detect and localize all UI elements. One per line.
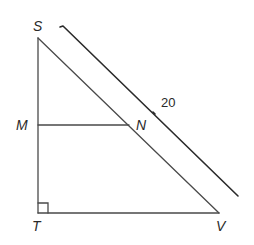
label-t: T [32, 218, 42, 234]
dimension-line-sv [60, 26, 238, 196]
label-m: M [16, 117, 28, 133]
length-label-sv: 20 [161, 95, 175, 110]
geometry-diagram: S M N T V 20 [0, 0, 254, 245]
label-n: N [136, 117, 147, 133]
label-s: S [33, 18, 43, 34]
label-v: V [216, 218, 227, 234]
right-angle-marker [38, 203, 48, 213]
